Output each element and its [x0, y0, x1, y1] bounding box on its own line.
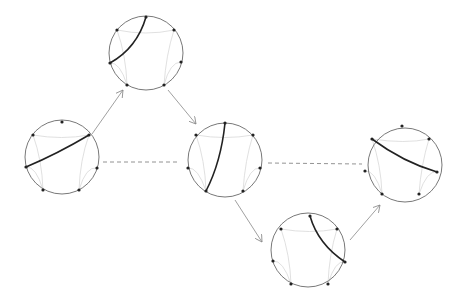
dashed-middle-to-right — [268, 163, 362, 164]
node-top — [108, 15, 183, 90]
arrow-top-to-middle — [168, 90, 196, 124]
node-right — [363, 124, 442, 202]
chord — [206, 123, 225, 191]
chord — [110, 17, 146, 63]
chord — [310, 216, 345, 262]
node-middle — [186, 121, 262, 197]
diagram-canvas — [0, 0, 460, 304]
arrow-left-to-top — [92, 90, 123, 134]
chord — [26, 135, 89, 167]
arrow-bottom-to-right — [350, 205, 380, 240]
arrow-middle-to-bottom — [235, 200, 262, 242]
node-left — [24, 120, 99, 194]
edges — [92, 90, 380, 242]
node-bottom — [271, 213, 347, 287]
